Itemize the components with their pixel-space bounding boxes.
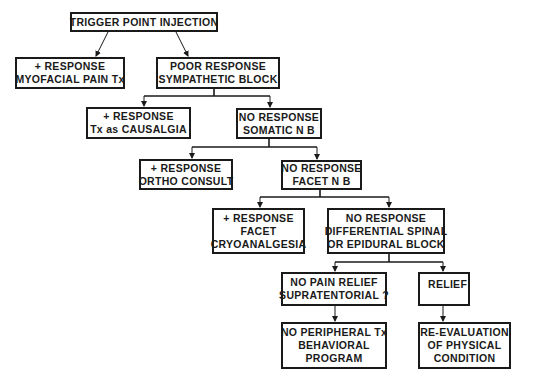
node-text: PROGRAM xyxy=(306,352,363,365)
arrow-trigger-to-sympathetic xyxy=(176,32,188,56)
node-text: + RESPONSE xyxy=(103,110,173,123)
node-text: CONDITION xyxy=(434,352,496,365)
node-text: MYOFACIAL PAIN Tx xyxy=(15,73,124,86)
node-text: CRYOANALGESIA xyxy=(211,238,307,251)
node-text: RE-EVALUATION xyxy=(420,326,509,339)
node-myofacial-pain: + RESPONSE MYOFACIAL PAIN Tx xyxy=(15,57,125,89)
node-text: ORTHO CONSULT xyxy=(139,175,234,188)
node-facet-nb: NO RESPONSE FACET N B xyxy=(281,160,362,190)
node-text: + RESPONSE xyxy=(223,212,293,225)
node-text: SUPRATENTORIAL ? xyxy=(279,289,389,302)
node-text: DIFFERENTIAL SPINAL xyxy=(325,225,448,238)
node-text: TRIGGER POINT INJECTION xyxy=(70,16,219,29)
node-text: SYMPATHETIC BLOCK xyxy=(158,73,277,86)
node-text: Tx as CAUSALGIA xyxy=(90,123,187,136)
node-differential-block: NO RESPONSE DIFFERENTIAL SPINAL OR EPIDU… xyxy=(327,208,445,254)
node-text: POOR RESPONSE xyxy=(170,60,266,73)
node-text: SOMATIC N B xyxy=(243,124,315,137)
node-re-evaluation: RE-EVALUATION OF PHYSICAL CONDITION xyxy=(418,322,511,369)
node-somatic-nb: NO RESPONSE SOMATIC N B xyxy=(236,108,322,139)
flowchart: TRIGGER POINT INJECTION + RESPONSE MYOFA… xyxy=(0,0,534,380)
node-text: NO PERIPHERAL Tx xyxy=(281,326,387,339)
node-text: NO RESPONSE xyxy=(346,212,426,225)
node-text: OR EPIDURAL BLOCK xyxy=(327,238,445,251)
node-text: OF PHYSICAL xyxy=(428,339,502,352)
node-no-peripheral-tx: NO PERIPHERAL Tx BEHAVIORAL PROGRAM xyxy=(281,322,387,369)
arrow-trigger-to-myofacial xyxy=(96,32,108,56)
node-ortho-consult: + RESPONSE ORTHO CONSULT xyxy=(139,159,233,190)
node-text: NO RESPONSE xyxy=(281,162,361,175)
node-relief: RELIEF xyxy=(418,272,470,306)
node-text: NO RESPONSE xyxy=(239,111,319,124)
node-facet-cryoanalgesia: + RESPONSE FACET CRYOANALGESIA xyxy=(212,208,305,254)
node-text: NO PAIN RELIEF xyxy=(290,276,377,289)
node-causalgia: + RESPONSE Tx as CAUSALGIA xyxy=(86,107,191,139)
node-no-pain-relief: NO PAIN RELIEF SUPRATENTORIAL ? xyxy=(281,272,387,306)
node-text: + RESPONSE xyxy=(35,60,105,73)
node-text: + RESPONSE xyxy=(151,162,221,175)
node-text: FACET xyxy=(241,225,277,238)
node-text: FACET N B xyxy=(292,175,350,188)
node-text: RELIEF xyxy=(428,278,467,291)
node-sympathetic-block: POOR RESPONSE SYMPATHETIC BLOCK xyxy=(156,57,280,89)
node-trigger-point-injection: TRIGGER POINT INJECTION xyxy=(70,12,218,32)
node-text: BEHAVIORAL xyxy=(298,339,370,352)
